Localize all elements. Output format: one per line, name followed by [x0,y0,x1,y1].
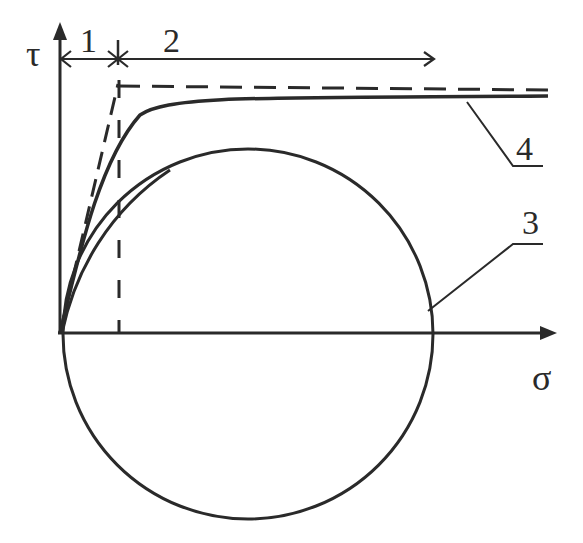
dashed-asymptote [60,80,548,333]
region-label-2: 2 [163,22,180,59]
tau-axis-label: τ [26,34,40,74]
dimension-arrows [60,40,434,67]
curve-label-3: 3 [522,204,539,241]
sigma-axis-arrowhead-icon [540,326,557,340]
mohr-diagram: τ σ 1 2 4 3 [0,0,583,543]
curve-label-4: 4 [516,130,533,167]
sigma-axis [58,326,557,340]
envelope-curve [60,96,548,333]
inner-arc [62,170,170,333]
tau-axis [53,22,67,333]
tau-axis-arrowhead-icon [53,22,67,40]
leader-line-3 [428,244,543,311]
region-label-1: 1 [80,22,97,59]
sigma-axis-label: σ [532,358,551,398]
